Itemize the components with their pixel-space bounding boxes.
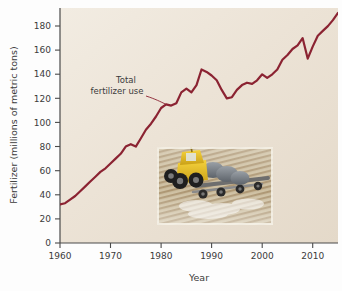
y-tick-label: 20 bbox=[40, 214, 52, 224]
y-axis-title: Fertilizer (millions of metric tons) bbox=[8, 46, 19, 203]
y-tick-label: 140 bbox=[34, 69, 51, 79]
x-tick-label: 1960 bbox=[49, 251, 72, 261]
chart-figure: 0 20 40 60 80 100 120 140 160 180 Fertil… bbox=[0, 0, 342, 291]
annotation-label-line2: fertilizer use bbox=[90, 86, 143, 96]
annotation-label-line1: Total bbox=[115, 75, 136, 85]
x-axis-title: Year bbox=[188, 272, 209, 283]
x-tick-label: 2010 bbox=[301, 251, 324, 261]
y-tick-label: 0 bbox=[45, 238, 51, 248]
x-tick-label: 1970 bbox=[99, 251, 122, 261]
fertilizer-use-line-chart: 0 20 40 60 80 100 120 140 160 180 Fertil… bbox=[0, 0, 342, 291]
y-tick-label: 80 bbox=[40, 142, 52, 152]
y-tick-label: 60 bbox=[40, 166, 52, 176]
y-tick-label: 40 bbox=[40, 190, 52, 200]
y-tick-label: 160 bbox=[34, 45, 51, 55]
x-tick-label: 2000 bbox=[251, 251, 274, 261]
y-tick-label: 100 bbox=[34, 118, 51, 128]
fertilizer-spreader-photo bbox=[157, 142, 273, 225]
x-tick-label: 1980 bbox=[150, 251, 173, 261]
y-tick-label: 180 bbox=[34, 21, 51, 31]
y-tick-label: 120 bbox=[34, 94, 51, 104]
x-tick-label: 1990 bbox=[200, 251, 223, 261]
